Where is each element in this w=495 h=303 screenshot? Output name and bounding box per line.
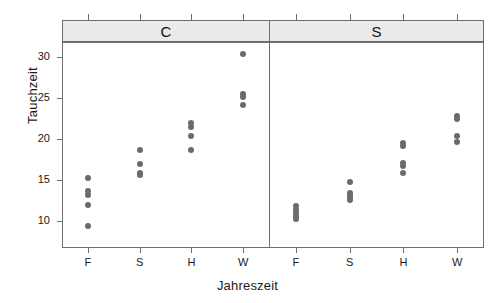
- data-point: [240, 102, 246, 108]
- plot-panel-s: [269, 42, 484, 248]
- data-point: [85, 192, 91, 198]
- data-point: [347, 197, 353, 203]
- data-point: [240, 51, 246, 57]
- y-tick-mark: [57, 57, 62, 58]
- data-point: [400, 170, 406, 176]
- y-tick-label: 30: [20, 50, 50, 62]
- x-tick-mark-bottom: [243, 248, 244, 253]
- x-tick-label: S: [338, 256, 362, 268]
- x-tick-mark-bottom: [191, 248, 192, 253]
- y-tick-mark: [57, 221, 62, 222]
- x-tick-mark-bottom: [88, 248, 89, 253]
- x-tick-mark-bottom: [457, 248, 458, 253]
- plot-panel-c: [62, 42, 270, 248]
- x-tick-mark-bottom: [403, 248, 404, 253]
- x-tick-mark-top: [296, 14, 297, 20]
- x-tick-mark-bottom: [140, 248, 141, 253]
- x-tick-label: H: [179, 256, 203, 268]
- panel-header-c: C: [62, 20, 270, 42]
- x-tick-mark-bottom: [350, 248, 351, 253]
- x-tick-mark-top: [88, 14, 89, 20]
- data-point: [137, 172, 143, 178]
- x-tick-label: F: [284, 256, 308, 268]
- data-point: [454, 133, 460, 139]
- data-point: [293, 216, 299, 222]
- x-axis-title: Jahreszeit: [0, 278, 495, 293]
- x-tick-label: F: [76, 256, 100, 268]
- data-point: [85, 202, 91, 208]
- y-tick-label: 20: [20, 132, 50, 144]
- data-point: [85, 223, 91, 229]
- data-point: [85, 175, 91, 181]
- x-tick-mark-top: [140, 14, 141, 20]
- x-tick-label: S: [128, 256, 152, 268]
- panel-header-c-label: C: [161, 23, 172, 40]
- y-tick-label: 25: [20, 91, 50, 103]
- chart-root: Tauchzeit Jahreszeit C S 1015202530FSHWF…: [0, 0, 495, 303]
- x-tick-mark-top: [243, 14, 244, 20]
- y-tick-label: 15: [20, 173, 50, 185]
- x-tick-mark-top: [403, 14, 404, 20]
- x-tick-mark-top: [457, 14, 458, 20]
- x-tick-label: H: [391, 256, 415, 268]
- data-point: [137, 147, 143, 153]
- panel-header-s: S: [269, 20, 484, 42]
- y-tick-mark: [57, 180, 62, 181]
- x-tick-label: W: [445, 256, 469, 268]
- y-tick-mark: [57, 139, 62, 140]
- x-tick-mark-top: [350, 14, 351, 20]
- x-tick-mark-bottom: [296, 248, 297, 253]
- panel-header-s-label: S: [371, 23, 381, 40]
- y-tick-label: 10: [20, 214, 50, 226]
- x-tick-mark-top: [191, 14, 192, 20]
- y-tick-mark: [57, 98, 62, 99]
- x-tick-label: W: [231, 256, 255, 268]
